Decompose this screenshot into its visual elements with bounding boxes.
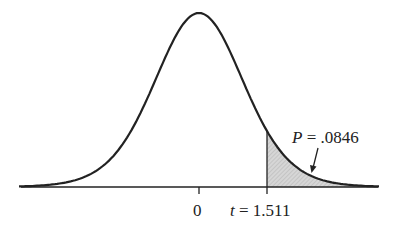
chart-canvas	[0, 0, 397, 232]
p-value: = .0846	[302, 128, 358, 147]
density-curve	[19, 13, 379, 186]
tick-label-t: t = 1.511	[230, 201, 290, 221]
t-distribution-chart: 0 t = 1.511 P = .0846	[0, 0, 397, 232]
tick-label-zero: 0	[193, 201, 202, 221]
t-value: = 1.511	[235, 201, 291, 220]
p-variable: P	[292, 128, 302, 147]
p-value-annotation: P = .0846	[292, 128, 359, 148]
annotation-arrow	[310, 148, 318, 173]
